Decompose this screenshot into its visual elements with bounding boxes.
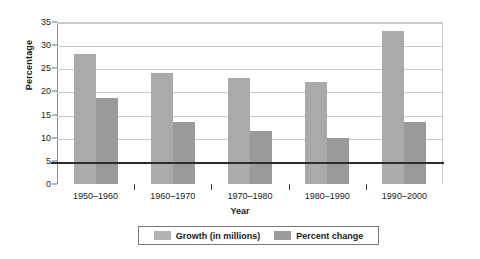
y-tick-mark	[52, 160, 57, 161]
plot-area	[57, 22, 443, 184]
bar	[74, 54, 96, 184]
y-tick-label: 10	[5, 133, 51, 143]
x-tick-label: 1990–2000	[382, 191, 427, 201]
x-axis-title: Year	[0, 206, 480, 216]
x-axis-line	[51, 162, 444, 164]
x-tick-mark	[289, 184, 290, 190]
y-tick-label: 20	[5, 86, 51, 96]
x-tick-mark	[134, 184, 135, 190]
legend-label-percent-change: Percent change	[296, 231, 363, 241]
legend-item-growth: Growth (in millions)	[154, 231, 261, 241]
legend-swatch-growth	[154, 231, 171, 240]
bar-chart: Percentage 05101520253035 1950–19601960–…	[0, 0, 480, 259]
bar	[96, 98, 118, 184]
legend-label-growth: Growth (in millions)	[176, 231, 261, 241]
x-tick-label: 1950–1960	[73, 191, 118, 201]
y-tick-label: 35	[5, 17, 51, 27]
bar	[305, 82, 327, 184]
bar-group	[366, 23, 443, 184]
bar	[173, 122, 195, 184]
x-tick-label: 1960–1970	[150, 191, 195, 201]
bar	[228, 78, 250, 184]
bar-group	[57, 23, 134, 184]
y-tick-label: 25	[5, 63, 51, 73]
plot-inner	[57, 23, 442, 184]
bar-group	[289, 23, 366, 184]
y-tick-mark	[52, 184, 57, 185]
y-tick-label: 0	[5, 179, 51, 189]
bar-group	[134, 23, 211, 184]
y-tick-label: 15	[5, 110, 51, 120]
y-tick-mark	[52, 45, 57, 46]
bar	[404, 122, 426, 184]
chart-legend: Growth (in millions) Percent change	[138, 226, 379, 245]
y-tick-mark	[52, 22, 57, 23]
y-tick-label: 30	[5, 40, 51, 50]
y-tick-mark	[52, 68, 57, 69]
y-tick-mark	[52, 137, 57, 138]
bar-group	[211, 23, 288, 184]
x-tick-label: 1980–1990	[305, 191, 350, 201]
bar	[327, 138, 349, 184]
legend-swatch-percent-change	[274, 231, 291, 240]
legend-item-percent-change: Percent change	[274, 231, 363, 241]
y-tick-label: 5	[5, 156, 51, 166]
x-tick-mark	[366, 184, 367, 190]
y-tick-mark	[52, 114, 57, 115]
bar	[250, 131, 272, 184]
bar	[151, 73, 173, 184]
x-tick-mark	[211, 184, 212, 190]
x-tick-label: 1970–1980	[227, 191, 272, 201]
y-tick-mark	[52, 91, 57, 92]
